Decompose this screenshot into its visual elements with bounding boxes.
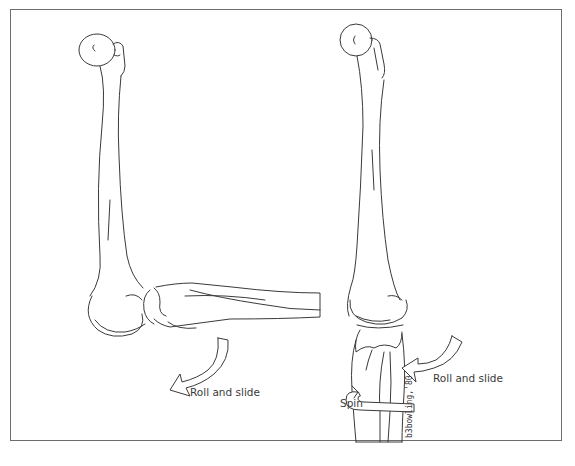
spin-label: Spin <box>340 397 363 409</box>
right-roll-and-slide-label: Roll and slide <box>433 372 503 384</box>
left-forearm <box>144 283 320 328</box>
anatomical-illustration <box>0 0 575 466</box>
left-roll-and-slide-label: Roll and slide <box>190 386 260 398</box>
artist-signature: b3bowling,'80 <box>405 375 414 438</box>
left-humerus <box>79 34 145 336</box>
right-humerus <box>340 24 407 324</box>
right-forearm <box>352 325 405 442</box>
